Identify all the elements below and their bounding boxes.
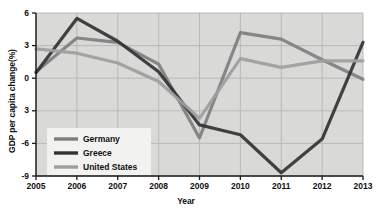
- y-axis-tick-label: -9: [3, 171, 29, 181]
- legend-label-germany: Germany: [83, 134, 120, 144]
- x-axis-tick-label: 2013: [343, 181, 377, 191]
- x-axis-tick-label: 2008: [139, 181, 179, 191]
- y-axis-tick-label: 3: [3, 105, 29, 115]
- y-axis-tick-label: -6: [3, 138, 29, 148]
- y-axis-tick-label: 0: [3, 73, 29, 83]
- x-axis-tick-label: 2007: [98, 181, 138, 191]
- x-axis-tick-label: 2011: [261, 181, 301, 191]
- x-axis-tick-label: 2005: [16, 181, 56, 191]
- y-axis-tick-label: 6: [3, 8, 29, 18]
- legend-label-greece: Greece: [83, 148, 112, 158]
- x-axis-tick-label: 2012: [302, 181, 342, 191]
- x-axis-tick-label: 2009: [180, 181, 220, 191]
- y-axis-tick-label: 3: [3, 40, 29, 50]
- x-axis-tick-label: 2006: [57, 181, 97, 191]
- x-axis-tick-label: 2010: [220, 181, 260, 191]
- x-axis-title: Year: [0, 196, 372, 206]
- legend-label-united-states: United States: [83, 162, 137, 172]
